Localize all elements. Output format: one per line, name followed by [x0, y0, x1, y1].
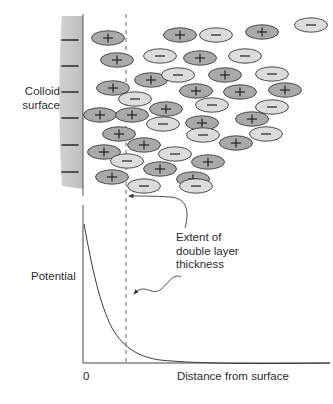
ion-negative: [196, 98, 229, 112]
ion-negative: [200, 28, 233, 42]
ion-positive: [220, 136, 253, 150]
ion-positive: [150, 102, 183, 116]
figure-root: Colloid surface Potential 0 Distance fro…: [0, 0, 333, 404]
colloid-surface-slab: [59, 14, 83, 226]
ion-negative: [119, 92, 152, 106]
ion-negative: [256, 67, 289, 81]
extent-arrow-lower: [134, 276, 181, 294]
ion-negative: [256, 100, 289, 114]
ion-positive: [236, 112, 269, 126]
ion-negative: [144, 49, 177, 63]
ion-field: [84, 18, 328, 193]
ion-negative: [159, 147, 192, 161]
ion-negative: [250, 127, 283, 141]
ion-negative: [180, 179, 213, 193]
colloid-label-line2: surface: [0, 99, 60, 113]
ion-positive: [246, 25, 279, 39]
diagram-canvas: [0, 0, 333, 404]
colloid-surface-label: Colloid surface: [0, 85, 60, 112]
ion-negative: [229, 49, 262, 63]
ion-positive: [224, 85, 257, 99]
x-axis-label: Distance from surface: [177, 370, 289, 384]
ion-negative: [162, 68, 195, 82]
ion-positive: [180, 84, 213, 98]
x-axis-origin-tick-label: 0: [83, 370, 89, 384]
ion-negative: [128, 179, 161, 193]
ion-negative: [295, 18, 328, 32]
extent-line-2: double layer: [176, 245, 239, 259]
ion-positive: [144, 162, 177, 176]
extent-arrow-upper: [129, 196, 187, 228]
ion-positive: [269, 83, 302, 97]
double-layer-annotation: Extent of double layer thickness: [176, 231, 239, 272]
ion-negative: [187, 128, 220, 142]
ion-positive: [92, 31, 125, 45]
ion-positive: [116, 108, 149, 122]
extent-line-1: Extent of: [176, 231, 239, 245]
ion-negative: [147, 117, 180, 131]
ion-negative: [111, 154, 144, 168]
ion-positive: [164, 28, 197, 42]
ion-positive: [84, 108, 117, 122]
colloid-label-line1: Colloid: [0, 85, 60, 99]
ion-positive: [96, 170, 129, 184]
ion-positive: [184, 51, 217, 65]
ion-positive: [101, 53, 134, 67]
ion-positive: [192, 155, 225, 169]
ion-positive: [128, 138, 161, 152]
y-axis-label: Potential: [31, 270, 76, 284]
extent-line-3: thickness: [176, 258, 239, 272]
ion-positive: [103, 127, 136, 141]
ion-positive: [209, 68, 242, 82]
